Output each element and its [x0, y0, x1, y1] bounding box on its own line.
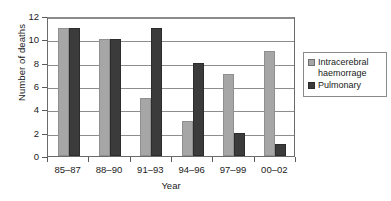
bar: [182, 121, 193, 156]
bar: [69, 28, 80, 156]
bar: [264, 51, 275, 156]
y-axis-tick-label: 2: [13, 128, 39, 139]
y-axis-tick-label: 6: [13, 81, 39, 92]
bar: [193, 63, 204, 156]
bars-layer: [48, 18, 294, 156]
y-axis-tick-label: 12: [13, 11, 39, 22]
bar: [140, 98, 151, 156]
legend-item-pulmonary: Pulmonary: [308, 80, 383, 91]
bar: [99, 39, 110, 156]
plot-area: [47, 17, 295, 157]
bar: [151, 28, 162, 156]
x-axis-tick-label: 00–02: [246, 164, 302, 175]
x-axis-tick-mark: [212, 157, 213, 162]
x-axis-tick-mark: [254, 157, 255, 162]
bar: [275, 144, 286, 156]
bar: [234, 133, 245, 156]
x-axis-tick-mark: [295, 157, 296, 162]
x-axis-title: Year: [47, 180, 295, 191]
bar: [223, 74, 234, 156]
legend-swatch-icon-series-1: [308, 82, 315, 89]
y-axis-tick-label: 4: [13, 104, 39, 115]
x-axis-tick-mark: [130, 157, 131, 162]
bar: [58, 28, 69, 156]
x-axis-tick-mark: [47, 157, 48, 162]
legend: Intracerebralhaemorrage Pulmonary: [303, 52, 387, 97]
x-axis-tick-mark: [171, 157, 172, 162]
y-axis-tick-label: 0: [13, 151, 39, 162]
legend-item-intracerebral-haemorrage: Intracerebralhaemorrage: [308, 57, 383, 79]
bar-chart: Number of deaths 024681012 85–8788–9091–…: [0, 0, 391, 201]
x-axis-tick-mark: [88, 157, 89, 162]
y-axis-tick-label: 10: [13, 34, 39, 45]
y-axis-tick-label: 8: [13, 58, 39, 69]
bar: [110, 39, 121, 156]
legend-label-series-0: Intracerebralhaemorrage: [318, 57, 369, 79]
legend-swatch-icon-series-0: [308, 59, 315, 66]
legend-label-series-1: Pulmonary: [318, 80, 361, 91]
